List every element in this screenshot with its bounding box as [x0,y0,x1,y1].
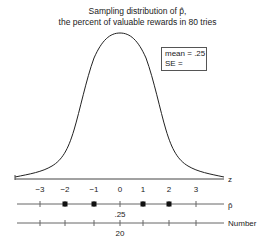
z-tick-label: −1 [89,185,99,194]
stats-box: mean = .25 SE = [161,47,207,71]
phat-marker [63,202,68,207]
phat-axis [17,201,224,207]
number-center-label: 20 [116,229,125,238]
phat-marker [92,202,97,207]
phat-center-label: .25 [114,210,126,219]
z-tick-label: −3 [35,185,45,194]
normal-curve-diagram: z −3 −2 −1 0 1 2 3 .25 p̂ 20 Number [0,0,275,247]
mean-label: mean = .25 [165,49,206,59]
phat-marker [141,202,146,207]
phat-marker [167,202,172,207]
number-axis [17,220,224,226]
z-tick-label: 3 [194,185,199,194]
z-tick-label: 0 [118,185,123,194]
z-axis-label: z [228,175,232,184]
z-tick-label: 2 [167,185,172,194]
z-tick-label: 1 [141,185,146,194]
phat-axis-label: p̂ [228,201,233,210]
number-axis-label: Number [228,219,257,228]
z-tick-label: −2 [60,185,70,194]
se-label: SE = [165,59,206,69]
